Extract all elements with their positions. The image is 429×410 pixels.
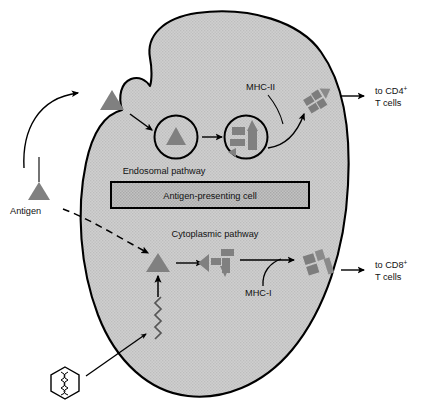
antigen-presentation-diagram: Antigen	[0, 0, 429, 410]
antigen-presenting-cell-box: Antigen-presenting cell	[111, 182, 309, 208]
mhc-ii-label: MHC-II	[246, 82, 275, 92]
antigen-label: Antigen	[10, 206, 41, 216]
cell-label-text: Antigen-presenting cell	[163, 191, 256, 201]
cd8-label-line2: T cells	[375, 272, 402, 282]
antigen-triangle	[28, 182, 50, 200]
endosomal-pathway-label: Endosomal pathway	[123, 166, 206, 176]
antigen-uptake-arrow	[24, 93, 78, 168]
peptide-fragment	[232, 127, 245, 135]
endosome-vesicle-two	[225, 116, 268, 159]
endosome-vesicle-one	[155, 116, 198, 159]
peptide-fragment	[221, 249, 234, 256]
mhc-i-label: MHC-I	[245, 288, 272, 298]
peptide-fragment	[211, 258, 221, 265]
figure-root: Antigen	[0, 0, 429, 410]
peptide-fragment	[230, 139, 245, 146]
cd4-label-line1: to CD4+	[375, 85, 408, 96]
virus-hexagon-particle	[51, 367, 79, 399]
cd8-label-line1: to CD8+	[375, 259, 408, 270]
peptide-fragment	[248, 131, 257, 150]
antigen-free-marker	[28, 157, 50, 200]
cd4-label-line2: T cells	[375, 98, 402, 108]
cytoplasmic-pathway-label: Cytoplasmic pathway	[172, 229, 259, 239]
